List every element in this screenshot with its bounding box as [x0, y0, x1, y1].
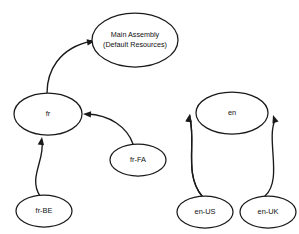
edge-frfa-to-fr	[185, 113, 202, 196]
diagram-canvas: Main Assembly (Default Resources) fr en …	[0, 0, 299, 234]
arrow-head-icon	[270, 114, 279, 124]
edge-path	[190, 119, 202, 196]
edge-enus-to-en	[185, 113, 202, 196]
node-fr-fa[interactable]: fr-FA	[110, 144, 166, 176]
node-fr-be[interactable]: fr-BE	[16, 195, 72, 227]
resource-fallback-diagram: Main Assembly (Default Resources) fr en …	[0, 0, 299, 234]
edge-path	[47, 41, 92, 93]
edge-fr-to-main	[47, 38, 96, 93]
node-label-line1: Main Assembly	[111, 30, 160, 39]
edge-path	[36, 141, 43, 196]
node-label: fr	[46, 109, 51, 118]
diagram-nodes: Main Assembly (Default Resources) fr en …	[14, 13, 296, 228]
edge-frbe-to-fr	[36, 137, 46, 196]
edge-path	[87, 114, 133, 144]
node-en-us[interactable]: en-US	[177, 196, 233, 228]
node-en-uk[interactable]: en-UK	[240, 196, 296, 228]
arrow-head-icon	[185, 113, 193, 122]
arrow-head-icon	[83, 111, 91, 118]
edge-en-to-main	[83, 111, 133, 144]
node-label: fr-BE	[36, 206, 53, 215]
arrow-head-icon	[38, 137, 45, 146]
edge-enuk-to-en	[265, 114, 279, 196]
node-label: en	[228, 108, 236, 117]
edge-path	[265, 120, 275, 196]
node-label: en-UK	[258, 207, 279, 216]
node-en[interactable]: en	[196, 92, 268, 134]
node-label: fr-FA	[130, 155, 146, 164]
node-label: en-US	[195, 207, 216, 216]
node-main-assembly[interactable]: Main Assembly (Default Resources)	[92, 13, 178, 67]
node-fr[interactable]: fr	[14, 93, 82, 135]
node-label-line2: (Default Resources)	[103, 40, 167, 49]
